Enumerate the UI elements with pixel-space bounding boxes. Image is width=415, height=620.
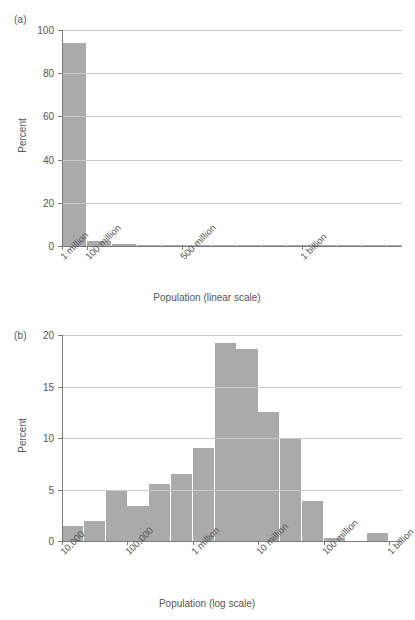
y-tick-label: 80 <box>16 68 54 79</box>
y-tick-mark <box>58 203 62 204</box>
gridline <box>62 335 402 336</box>
gridline <box>62 387 402 388</box>
gridline <box>62 116 402 117</box>
gridline <box>62 203 402 204</box>
panel-a-x-axis-line <box>62 246 402 247</box>
gridline <box>62 160 402 161</box>
gridline <box>62 490 402 491</box>
y-tick-label: 0 <box>16 536 54 547</box>
y-tick-label: 20 <box>16 330 54 341</box>
gridline <box>62 73 402 74</box>
panel-b-x-axis-line <box>62 541 402 542</box>
y-tick-mark <box>58 73 62 74</box>
y-tick-label: 10 <box>16 433 54 444</box>
y-tick-mark <box>58 387 62 388</box>
histogram-bar <box>106 491 127 541</box>
panel-a-plot-area: 020406080100 1 million100 million500 mil… <box>62 30 402 246</box>
histogram-bar <box>171 474 192 541</box>
y-tick-label: 100 <box>16 25 54 36</box>
y-tick-label: 5 <box>16 484 54 495</box>
histogram-bar <box>258 412 279 541</box>
panel-a-bars <box>62 30 402 246</box>
y-tick-label: 40 <box>16 154 54 165</box>
y-tick-mark <box>58 116 62 117</box>
panel-a-x-axis-title: Population (linear scale) <box>0 292 414 303</box>
histogram-bar <box>84 521 105 541</box>
y-tick-mark <box>58 438 62 439</box>
y-tick-mark <box>58 30 62 31</box>
y-tick-mark <box>58 160 62 161</box>
gridline <box>62 438 402 439</box>
histogram-bar <box>215 343 236 541</box>
panel-b-log-scale: (b) Percent 05101520 10,000100,0001 mill… <box>0 310 414 620</box>
y-tick-mark <box>58 490 62 491</box>
panel-a-linear-scale: (a) Percent 020406080100 1 million100 mi… <box>0 0 414 310</box>
panel-b-y-axis-line <box>62 335 63 541</box>
histogram-bar <box>302 501 323 541</box>
y-tick-label: 60 <box>16 111 54 122</box>
gridline <box>62 30 402 31</box>
y-tick-label: 15 <box>16 381 54 392</box>
histogram-bar <box>367 533 388 541</box>
y-tick-mark <box>58 335 62 336</box>
y-tick-label: 20 <box>16 197 54 208</box>
histogram-bar <box>236 349 257 541</box>
panel-a-y-axis-line <box>62 30 63 246</box>
panel-b-x-axis-title: Population (log scale) <box>0 598 414 609</box>
panel-a-label: (a) <box>14 14 27 25</box>
panel-b-plot-area: 05101520 10,000100,0001 million10 millio… <box>62 335 402 541</box>
y-tick-label: 0 <box>16 241 54 252</box>
